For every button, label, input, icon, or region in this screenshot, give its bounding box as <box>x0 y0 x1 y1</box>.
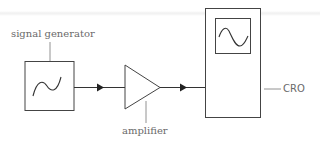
amplifier-triangle <box>125 65 160 109</box>
cro-screen <box>216 19 251 54</box>
diagram-graphics <box>0 0 320 144</box>
amplifier-label: amplifier <box>122 125 168 137</box>
block-diagram: signal generator amplifier CRO <box>0 0 320 144</box>
arrowhead-icon <box>180 84 187 92</box>
arrowhead-icon <box>97 84 104 92</box>
cro-label: CRO <box>283 83 305 95</box>
signal-generator-label: signal generator <box>11 28 95 40</box>
signal-generator-box <box>25 62 74 111</box>
